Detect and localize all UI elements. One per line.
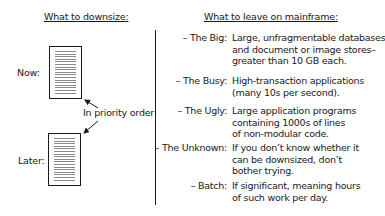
item-term: – Batch: <box>147 180 227 192</box>
item-term: – The Busy: <box>147 75 227 87</box>
item-description: Large application programs containing 10… <box>232 105 356 140</box>
item-term: – The Ugly: <box>147 105 227 117</box>
mainframe-heading: What to leave on mainframe: <box>204 11 338 22</box>
item-description: High-transaction applications (many 10s … <box>232 75 364 98</box>
item-term: – The Big: <box>147 32 227 44</box>
item-description: If you don’t know whether it can be down… <box>232 142 359 177</box>
item-term: – The Unknown: <box>137 142 227 154</box>
item-description: Large, unfragmentable databases and docu… <box>232 32 385 67</box>
column-divider <box>155 30 156 205</box>
item-description: If significant, meaning hours of such wo… <box>232 180 360 203</box>
